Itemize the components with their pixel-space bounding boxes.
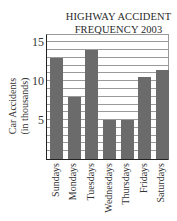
- y-axis-label: Car Accidents (in thousands): [7, 56, 33, 156]
- bar-sundays: [50, 58, 63, 159]
- bar-wednesdays: [103, 120, 116, 159]
- chart-title-line-1: HIGHWAY ACCIDENT: [60, 10, 177, 23]
- x-tick-label: Wednesdays: [103, 163, 115, 219]
- x-tick-label: Fridays: [138, 163, 150, 219]
- plot-area: [46, 34, 169, 160]
- bar-saturdays: [156, 70, 169, 159]
- gridline: [47, 34, 168, 35]
- y-axis-label-line-1: Car Accidents: [7, 56, 19, 156]
- gridline: [47, 65, 168, 66]
- chart-title: HIGHWAY ACCIDENT FREQUENCY 2003: [60, 10, 177, 36]
- gridline: [47, 41, 168, 42]
- bar-tuesdays: [85, 50, 98, 159]
- x-tick-label: Tuesdays: [85, 163, 97, 219]
- x-tick-label: Sundays: [50, 163, 62, 219]
- y-tick-label: 15: [28, 35, 44, 50]
- x-tick-label: Mondays: [67, 163, 79, 219]
- y-tick-label: 10: [28, 74, 44, 89]
- y-axis-label-line-2: (in thousands): [19, 56, 31, 156]
- gridline: [47, 72, 168, 73]
- x-tick-label: Thursdays: [120, 163, 132, 219]
- x-tick-label: Saturdays: [155, 163, 167, 219]
- y-tick-label: 5: [28, 113, 44, 128]
- gridline: [47, 57, 168, 58]
- gridline: [47, 49, 168, 50]
- bar-thursdays: [121, 120, 134, 159]
- bar-mondays: [68, 97, 81, 159]
- bar-fridays: [138, 77, 151, 159]
